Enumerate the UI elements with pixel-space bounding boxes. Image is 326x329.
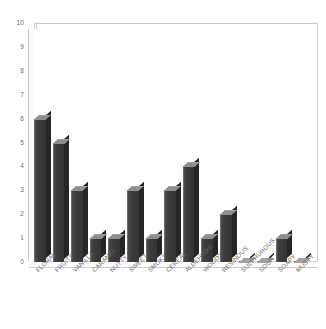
bar-side-face (64, 135, 69, 258)
bar-side-face (194, 159, 199, 258)
y-axis-tick-label: 6 (2, 116, 24, 123)
y-axis-tick-label: 5 (2, 140, 24, 147)
bar-side-face (139, 183, 144, 258)
bar[interactable] (127, 190, 139, 262)
y-axis-tick-label: 1 (2, 235, 24, 242)
bar-side-face (83, 183, 88, 258)
y-axis-tick-label: 4 (2, 163, 24, 170)
bar[interactable] (71, 190, 83, 262)
bar[interactable] (164, 190, 176, 262)
y-axis-tick-label: 9 (2, 44, 24, 51)
bar-front-face (183, 166, 195, 262)
y-axis-tick-label: 7 (2, 92, 24, 99)
bar[interactable] (53, 143, 65, 263)
bar-series (34, 23, 318, 268)
bar-side-face (46, 111, 51, 258)
y-axis-tick-label: 2 (2, 211, 24, 218)
bar-front-face (34, 119, 46, 262)
bar-side-face (232, 206, 237, 258)
bar-front-face (71, 190, 83, 262)
bar[interactable] (183, 166, 195, 262)
y-axis-tick-label: 10 (2, 20, 24, 27)
y-axis-tick-label: 0 (2, 259, 24, 266)
bar[interactable] (34, 119, 46, 262)
bar-chart: 109876543210 FLORALFRUITYVANILLACARAMELN… (0, 0, 326, 329)
y-axis-tick-label: 3 (2, 187, 24, 194)
y-axis-tick-label: 8 (2, 68, 24, 75)
bar-front-face (127, 190, 139, 262)
bar-front-face (53, 143, 65, 263)
bar-front-face (164, 190, 176, 262)
y-axis: 109876543210 (0, 17, 28, 269)
bar-side-face (176, 183, 181, 258)
x-axis: FLORALFRUITYVANILLACARAMELNUTTYSWEETSMOK… (34, 269, 326, 329)
